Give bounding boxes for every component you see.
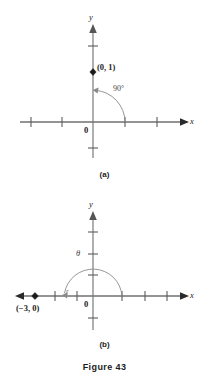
panel-a-graph [0, 0, 209, 190]
panel-a-x-axis-arrowhead [180, 118, 189, 126]
panel-b-x-axis-right-arrowhead [180, 292, 189, 300]
panel-b-y-axis-arrowhead [89, 211, 97, 220]
panel-b-y-axis-label: y [89, 200, 93, 209]
panel-a-y-axis-arrowhead [89, 24, 97, 33]
panel-b-point-label: (−3, 0) [16, 304, 39, 313]
panel-b-graph [0, 200, 209, 350]
panel-b-x-axis-left-arrowhead [15, 292, 24, 300]
panel-a-point-label: (0, 1) [97, 63, 115, 72]
panel-b-point-marker [32, 293, 39, 300]
figure-caption: Figure 43 [0, 363, 209, 372]
figure-43-container: x y 0 (0, 1) 90° (a) x y 0 (−3, 0) θ [0, 0, 209, 385]
panel-b-radius-label: r [66, 288, 69, 295]
panel-a-point-marker [90, 69, 96, 76]
panel-b-theta-label: θ [76, 249, 80, 258]
panel-a-angle-label: 90° [113, 85, 124, 93]
panel-a-x-axis-label: x [190, 117, 194, 126]
panel-a-y-axis-label: y [89, 13, 93, 22]
panel-a-label: (a) [0, 171, 209, 179]
panel-a-angle-arc [96, 90, 126, 122]
panel-b-label: (b) [0, 341, 209, 349]
panel-b-origin-label: 0 [84, 300, 88, 309]
panel-b-x-axis-label: x [190, 291, 194, 300]
panel-a-origin-label: 0 [84, 126, 88, 135]
